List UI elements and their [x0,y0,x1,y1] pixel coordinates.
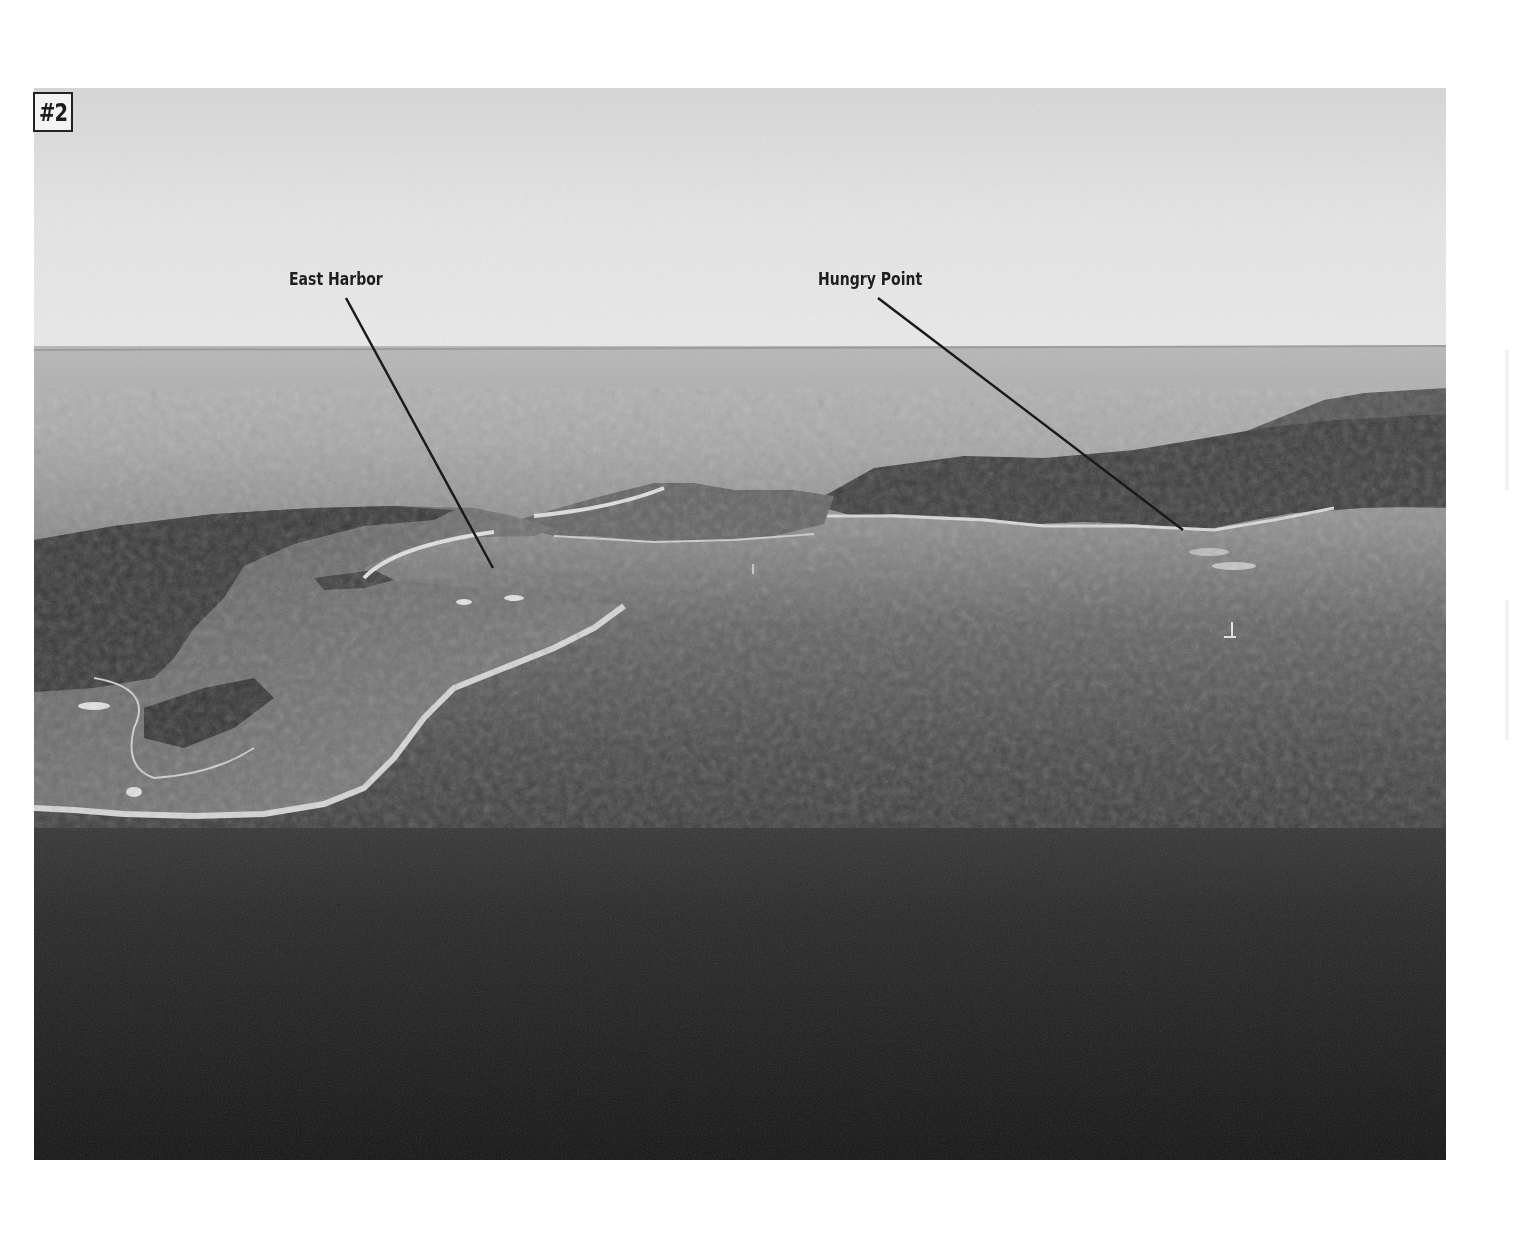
label-hungry-point: Hungry Point [818,268,922,289]
label-east-harbor: East Harbor [289,268,383,289]
scan-artifact [1505,350,1509,490]
figure-number: #2 [39,98,67,127]
scan-artifact [1505,600,1509,740]
aerial-photo [34,88,1446,1160]
aerial-scene [34,88,1446,1160]
figure-number-badge: #2 [33,92,73,132]
film-grain [34,88,1446,1160]
